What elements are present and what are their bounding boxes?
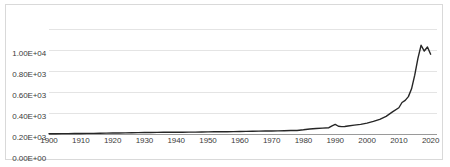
x-tick-label: 1960 bbox=[231, 136, 248, 145]
y-axis-tick-labels: 0.00E+000.20E+030.40E+030.60E+030.80E+03… bbox=[6, 29, 46, 134]
y-tick-label: 0.80E+03 bbox=[12, 70, 46, 79]
chart-container: 0.00E+000.20E+030.40E+030.60E+030.80E+03… bbox=[5, 4, 443, 160]
y-tick-label: 1.00E+04 bbox=[12, 49, 46, 58]
plot-area bbox=[49, 29, 437, 134]
x-axis-line bbox=[49, 134, 437, 135]
x-tick-label: 1910 bbox=[72, 136, 89, 145]
y-tick-label: 0.60E+03 bbox=[12, 91, 46, 100]
y-tick-label: 0.40E+03 bbox=[12, 112, 46, 121]
series-line bbox=[49, 45, 431, 133]
x-axis-tick-labels: 1900191019201930194019501960197019801990… bbox=[49, 136, 437, 152]
y-tick-label: 0.00E+00 bbox=[12, 154, 46, 163]
x-tick-label: 1990 bbox=[327, 136, 344, 145]
x-tick-label: 2010 bbox=[390, 136, 407, 145]
line-series bbox=[49, 29, 437, 134]
x-tick-label: 1920 bbox=[104, 136, 121, 145]
x-tick-label: 2000 bbox=[358, 136, 375, 145]
x-tick-label: 1980 bbox=[295, 136, 312, 145]
x-tick-label: 1940 bbox=[168, 136, 185, 145]
x-tick-label: 1930 bbox=[136, 136, 153, 145]
x-tick-label: 1900 bbox=[40, 136, 57, 145]
x-tick-label: 1950 bbox=[199, 136, 216, 145]
x-tick-label: 1970 bbox=[263, 136, 280, 145]
x-tick-label: 2020 bbox=[422, 136, 439, 145]
plot-wrapper: 0.00E+000.20E+030.40E+030.60E+030.80E+03… bbox=[6, 5, 444, 161]
